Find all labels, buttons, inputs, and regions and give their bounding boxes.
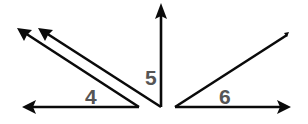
angle-4-group: 4: [17, 28, 139, 114]
angle-6-diagonal-ray: [175, 35, 287, 107]
angle-4-label: 4: [85, 85, 97, 108]
angle-5-diagonal-ray: [46, 33, 161, 107]
angle-5-label: 5: [145, 66, 157, 89]
angle-6-group: 6: [175, 32, 291, 114]
angle-6-label: 6: [219, 85, 231, 108]
arrowhead-upper-left-icon: [38, 28, 53, 41]
arrowhead-upper-left-icon: [17, 28, 32, 41]
angle-4-diagonal-ray: [25, 33, 139, 107]
angle-diagram: 4 5 6: [0, 0, 308, 124]
